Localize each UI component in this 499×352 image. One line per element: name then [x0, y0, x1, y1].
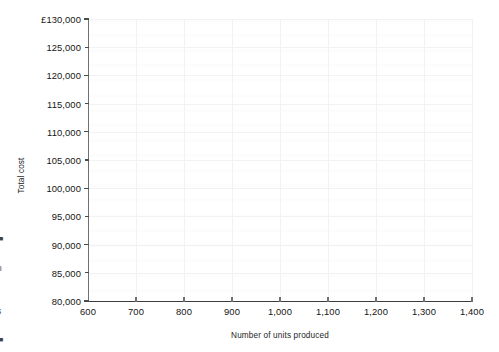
x-tick-label: 800: [176, 306, 192, 317]
y-tick-label: 125,000: [46, 42, 81, 53]
y-axis-tick: [84, 244, 90, 245]
margin-fragment: ■: [0, 333, 9, 347]
y-tick-label: £130,000: [41, 14, 81, 25]
y-axis-tick: [85, 272, 90, 273]
x-tick-label: 600: [80, 306, 96, 317]
y-tick-label: 80,000: [52, 296, 81, 307]
x-tick-label: 700: [128, 306, 144, 317]
x-tick-label: 1,300: [412, 306, 436, 317]
y-axis-tick: [85, 159, 90, 160]
y-tick-label: 100,000: [46, 183, 81, 194]
x-axis-tick: [279, 297, 280, 302]
x-axis-tick: [423, 297, 424, 302]
y-axis-tick: [85, 103, 90, 104]
y-axis-tick: [84, 18, 90, 19]
gridline-vertical: [472, 19, 473, 301]
gridline-vertical: [328, 19, 329, 301]
x-axis-tick: [231, 297, 232, 302]
y-axis-tick: [84, 188, 90, 189]
x-axis-tick: [135, 297, 136, 302]
margin-fragment: t: [0, 275, 9, 289]
x-axis-tick: [183, 297, 184, 302]
y-tick-label: 90,000: [52, 239, 81, 250]
gridline-vertical: [376, 19, 377, 301]
margin-fragment: s: [0, 304, 9, 318]
y-tick-label: 95,000: [52, 211, 81, 222]
y-axis-tick: [84, 131, 90, 132]
graph-page: ■ : n t r s . ■ Total cost Number of uni…: [0, 0, 499, 352]
y-tick-label: 85,000: [52, 267, 81, 278]
x-tick-label: 1,400: [460, 306, 484, 317]
margin-fragment: .: [0, 318, 9, 332]
x-tick-label: 1,000: [268, 306, 292, 317]
x-axis-tick: [375, 297, 376, 302]
x-axis-tick: [327, 297, 328, 302]
x-tick-label: 1,100: [316, 306, 340, 317]
margin-fragment: r: [0, 290, 9, 304]
y-axis-title: Total cost: [14, 139, 28, 211]
y-tick-label: 110,000: [47, 126, 81, 137]
gridline-vertical: [136, 19, 137, 301]
gridline-vertical: [184, 19, 185, 301]
gridline-vertical: [280, 19, 281, 301]
x-tick-label: 900: [224, 306, 240, 317]
y-axis-tick: [85, 47, 90, 48]
y-axis-tick: [84, 75, 90, 76]
y-tick-label: 105,000: [46, 155, 81, 166]
x-axis-tick: [471, 297, 472, 302]
y-axis-tick: [85, 216, 90, 217]
margin-fragment: :: [0, 246, 9, 260]
y-tick-label: 120,000: [46, 70, 81, 81]
x-axis-title: Number of units produced: [88, 331, 472, 340]
y-axis-title-text: Total cost: [17, 157, 26, 193]
margin-fragment: ■: [0, 232, 9, 246]
margin-text-fragments: ■ : n t r s . ■: [0, 232, 9, 348]
gridline-vertical: [424, 19, 425, 301]
gridline-vertical: [232, 19, 233, 301]
plot-area: 80,00085,00090,00095,000100,000105,00011…: [88, 19, 472, 301]
y-tick-label: 115,000: [47, 98, 81, 109]
x-tick-label: 1,200: [364, 306, 388, 317]
margin-fragment: n: [0, 261, 9, 275]
y-axis-tick: [84, 300, 90, 301]
